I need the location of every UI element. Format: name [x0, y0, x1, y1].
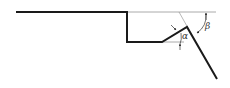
diagram-canvas: α β: [0, 0, 230, 88]
alpha-label: α: [182, 31, 188, 41]
beta-label: β: [204, 21, 210, 31]
extension-line: [179, 12, 188, 28]
alpha-arc-arrow-upper: [171, 25, 176, 30]
profile-path: [16, 12, 217, 79]
